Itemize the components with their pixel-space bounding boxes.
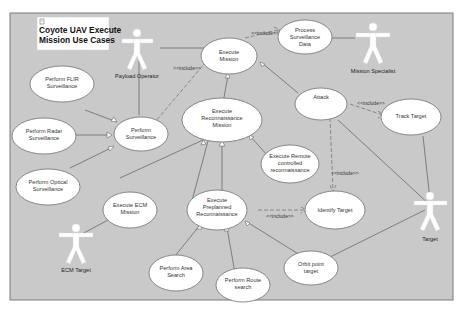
svg-text:Mission: Mission <box>220 56 239 62</box>
svg-text:target: target <box>304 268 319 274</box>
svg-text:Reconnaissance: Reconnaissance <box>201 115 242 121</box>
actor-label: ECM Target <box>61 267 91 273</box>
use-case-execute-preplanned-recon[interactable]: Execute Preplanned Reconnaissance <box>187 190 247 230</box>
use-case-execute-mission[interactable]: Execute Mission <box>201 38 257 74</box>
svg-text:Data: Data <box>299 41 312 47</box>
use-case-perform-route-search[interactable]: Perform Route search <box>216 268 270 302</box>
use-case-attack[interactable]: Attack <box>295 88 347 120</box>
use-case-execute-ecm-mission[interactable]: Execute ECM Mission <box>103 192 157 228</box>
svg-text:Surveillance: Surveillance <box>126 134 156 140</box>
use-case-orbit-point-target[interactable]: Orbit point target <box>284 251 338 285</box>
svg-text:reconnaissance: reconnaissance <box>270 167 309 173</box>
svg-text:Mission: Mission <box>121 209 140 215</box>
use-case-track-target[interactable]: Track Target <box>381 99 441 135</box>
diagram-title-note: Coyote UAV Execute Mission Use Cases <box>37 17 122 50</box>
svg-text:Execute ECM: Execute ECM <box>113 202 148 208</box>
svg-text:Surveillance: Surveillance <box>290 34 320 40</box>
use-case-perform-radar-surveillance[interactable]: Perform Radar Surveillance <box>12 118 76 154</box>
actor-label: Target <box>422 236 438 242</box>
svg-text:Perform Optical: Perform Optical <box>29 179 68 185</box>
svg-text:Reconnaissance: Reconnaissance <box>196 211 237 217</box>
include-label-surveillance: <<include>> <box>173 65 201 71</box>
svg-text:Perform Route: Perform Route <box>225 277 261 283</box>
svg-text:Execute: Execute <box>207 197 227 203</box>
svg-text:Execute Remote: Execute Remote <box>269 153 310 159</box>
svg-text:Search: Search <box>167 272 185 278</box>
use-case-process-surveillance-data[interactable]: Process Surveillance Data <box>278 20 332 54</box>
use-case-execute-reconnaissance-mission[interactable]: Execute Reconnaissance Mission <box>182 98 262 142</box>
svg-text:Orbit point: Orbit point <box>298 261 324 267</box>
svg-text:Surveillance: Surveillance <box>47 83 77 89</box>
use-case-perform-optical-surveillance[interactable]: Perform Optical Surveillance <box>16 169 80 205</box>
svg-text:Mission: Mission <box>213 122 232 128</box>
svg-text:Attack: Attack <box>313 94 329 100</box>
use-case-identify-target[interactable]: Identify Target <box>305 191 365 229</box>
title-line-1: Coyote UAV Execute <box>39 25 122 35</box>
svg-text:Perform Area: Perform Area <box>160 265 194 271</box>
title-line-2: Mission Use Cases <box>39 35 115 45</box>
svg-text:search: search <box>235 284 252 290</box>
use-case-execute-remote-recon[interactable]: Execute Remote controlled reconnaissance <box>261 145 319 183</box>
svg-text:Track Target: Track Target <box>396 113 427 119</box>
svg-text:Perform Radar: Perform Radar <box>26 128 63 134</box>
svg-text:Process: Process <box>295 27 315 33</box>
include-label-identify-preplanned: <<include>> <box>266 213 294 219</box>
svg-text:Preplanned: Preplanned <box>203 204 232 210</box>
use-case-perform-surveillance[interactable]: Perform Surveillance <box>114 117 168 151</box>
svg-text:Surveillance: Surveillance <box>29 135 59 141</box>
actor-label: Payload Operator <box>115 73 159 79</box>
actor-label: Mission Specialist <box>351 68 396 74</box>
include-label-track: <<include>> <box>357 100 385 106</box>
svg-text:controlled: controlled <box>278 160 302 166</box>
use-case-perform-area-search[interactable]: Perform Area Search <box>149 255 203 291</box>
svg-text:Surveillance: Surveillance <box>33 186 63 192</box>
include-label-identify-attack: <<include>> <box>331 170 359 176</box>
svg-text:Execute: Execute <box>219 49 239 55</box>
svg-text:Perform: Perform <box>131 127 151 133</box>
include-label-process: <<include>> <box>251 30 279 36</box>
use-case-diagram: Coyote UAV Execute Mission Use Cases <box>0 0 461 315</box>
note-icon <box>40 19 44 24</box>
svg-text:Identify Target: Identify Target <box>317 207 352 213</box>
use-case-perform-flir-surveillance[interactable]: Perform FLIR Surveillance <box>30 66 94 102</box>
svg-text:Perform FLIR: Perform FLIR <box>45 76 79 82</box>
svg-text:Execute: Execute <box>212 108 232 114</box>
